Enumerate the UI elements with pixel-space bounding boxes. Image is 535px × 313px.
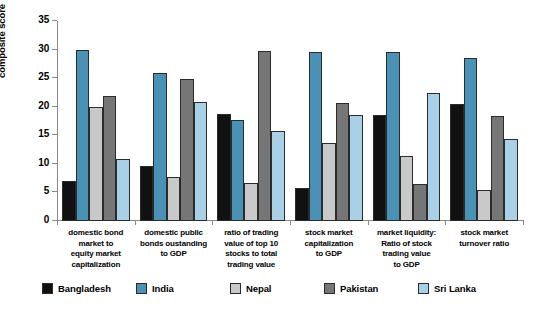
bar xyxy=(295,188,309,221)
bar xyxy=(309,52,323,221)
legend-label: Sri Lanka xyxy=(434,283,476,294)
legend-swatch xyxy=(136,283,147,294)
x-axis-category-label: domestic publicbonds oustandingto GDP xyxy=(135,228,213,270)
legend-label: Pakistan xyxy=(340,283,378,294)
legend-item[interactable]: Bangladesh xyxy=(42,283,136,294)
bar xyxy=(464,58,478,221)
label-line: stocks to total xyxy=(214,249,288,260)
bar xyxy=(217,114,231,221)
y-axis-tick-label: 10 xyxy=(9,157,49,169)
x-axis-category-label: market liquidity:Ratio of stocktrading v… xyxy=(368,228,446,270)
bar xyxy=(427,93,441,221)
bar xyxy=(271,131,285,221)
bar-groups xyxy=(57,21,523,221)
label-line: ratio of trading xyxy=(214,228,288,239)
bar xyxy=(89,107,103,221)
bar-group xyxy=(445,21,523,221)
x-axis-category-label: stock marketturnover ratio xyxy=(445,228,523,270)
bar-group xyxy=(212,21,290,221)
bar xyxy=(153,73,167,221)
label-line: trading value xyxy=(370,249,444,260)
bar xyxy=(386,52,400,221)
x-axis-category-label: ratio of tradingvalue of top 10stocks to… xyxy=(212,228,290,270)
legend-swatch xyxy=(324,283,335,294)
legend-swatch xyxy=(230,283,241,294)
label-line: Ratio of stock xyxy=(370,239,444,250)
bar-chart: composite score 05101520253035 domestic … xyxy=(0,0,535,313)
label-line: bonds oustanding xyxy=(137,239,211,250)
x-axis-category-labels: domestic bondmarket toequity marketcapit… xyxy=(57,228,523,270)
chart-legend: BangladeshIndiaNepalPakistanSri Lanka xyxy=(42,283,512,294)
legend-swatch xyxy=(42,283,53,294)
bar-group xyxy=(290,21,368,221)
legend-item[interactable]: Pakistan xyxy=(324,283,418,294)
label-line: to GDP xyxy=(137,249,211,260)
bar xyxy=(244,183,258,221)
bar xyxy=(491,116,505,221)
bar xyxy=(450,104,464,221)
y-axis-tick-label: 35 xyxy=(9,14,49,26)
bar-group xyxy=(57,21,135,221)
label-line: equity market xyxy=(59,249,133,260)
label-line: stock market xyxy=(292,228,366,239)
bar xyxy=(504,139,518,221)
label-line: capitalization xyxy=(59,260,133,271)
bar-group xyxy=(368,21,446,221)
legend-swatch xyxy=(418,283,429,294)
bar xyxy=(194,102,208,221)
label-line: market liquidity: xyxy=(370,228,444,239)
y-axis-tick-label: 0 xyxy=(9,214,49,226)
label-line: stock market xyxy=(447,228,521,239)
y-axis-tick-label: 25 xyxy=(9,71,49,83)
x-axis-tick-mark xyxy=(523,220,524,225)
legend-label: India xyxy=(152,283,174,294)
label-line: to GDP xyxy=(292,249,366,260)
label-line: market to xyxy=(59,239,133,250)
bar xyxy=(322,143,336,221)
bar xyxy=(180,79,194,221)
y-axis-tick-label: 15 xyxy=(9,128,49,140)
bar xyxy=(62,181,76,221)
bar xyxy=(167,177,181,221)
x-axis-category-label: stock marketcapitalizationto GDP xyxy=(290,228,368,270)
bar xyxy=(258,51,272,221)
bar xyxy=(400,156,414,221)
bar xyxy=(103,96,117,221)
y-axis-tick-label: 20 xyxy=(9,100,49,112)
y-axis-title: composite score xyxy=(0,0,7,78)
label-line: turnover ratio xyxy=(447,239,521,250)
x-axis-category-label: domestic bondmarket toequity marketcapit… xyxy=(57,228,135,270)
bar xyxy=(116,159,130,221)
label-line: value of top 10 xyxy=(214,239,288,250)
legend-label: Bangladesh xyxy=(58,283,111,294)
bar xyxy=(349,115,363,221)
legend-item[interactable]: Sri Lanka xyxy=(418,283,512,294)
label-line: domestic bond xyxy=(59,228,133,239)
bar xyxy=(140,166,154,221)
label-line: domestic public xyxy=(137,228,211,239)
bar xyxy=(477,190,491,221)
legend-item[interactable]: India xyxy=(136,283,230,294)
label-line: trading value xyxy=(214,260,288,271)
bar xyxy=(76,50,90,221)
bar xyxy=(336,103,350,221)
bar-group xyxy=(135,21,213,221)
bar xyxy=(413,184,427,221)
bar xyxy=(373,115,387,221)
y-axis-tick-label: 30 xyxy=(9,43,49,55)
legend-label: Nepal xyxy=(246,283,271,294)
y-axis-tick-label: 5 xyxy=(9,185,49,197)
legend-item[interactable]: Nepal xyxy=(230,283,324,294)
label-line: capitalization xyxy=(292,239,366,250)
label-line: to GDP xyxy=(370,260,444,271)
bar xyxy=(231,120,245,221)
